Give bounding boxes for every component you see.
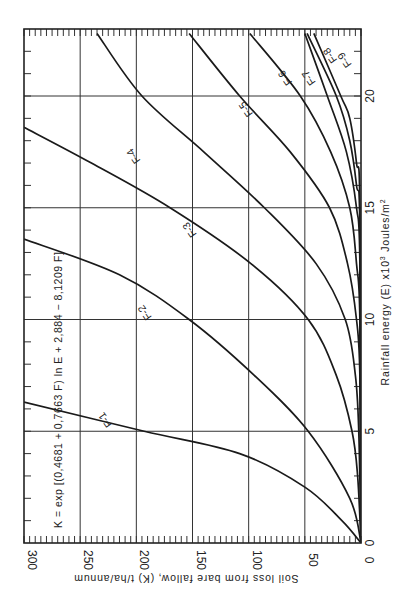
curve-f-5 [189, 33, 361, 543]
x-tick-label: 20 [363, 89, 377, 103]
y-axis-tick-labels: 050100150200250300 [25, 550, 376, 570]
x-axis-label-units-sup: 2 [379, 199, 386, 204]
curve-label-f-5: F-5 [236, 99, 255, 119]
y-tick-label: 100 [250, 550, 264, 570]
curve-label-f-9: F-9 [335, 50, 354, 70]
x-tick-label: 0 [363, 539, 377, 546]
x-axis-label-units: Joules/m [379, 203, 391, 255]
x-tick-label: 5 [363, 428, 377, 435]
y-tick-label: 150 [194, 550, 208, 570]
x-axis-label: Rainfall energy (E) x103 Joules/m2 [379, 199, 391, 386]
curve-label-f-4: F-4 [124, 146, 143, 166]
x-axis-tick-labels: 05101520 [363, 89, 377, 546]
y-tick-label: 250 [81, 550, 95, 570]
curve-label-f-8: F-8 [320, 46, 339, 66]
y-axis-label: Soil loss from bare fallow, (K) t/ha/ann… [73, 573, 298, 585]
y-tick-label: 0 [362, 557, 376, 564]
y-tick-label: 50 [306, 553, 320, 567]
x-axis-label-main: Rainfall energy (E) x10 [379, 260, 391, 385]
y-tick-label: 300 [25, 550, 39, 570]
curve-label-f-7: F-7 [299, 68, 318, 88]
soil-loss-chart: F-1F-2F-3F-4F-5F-6F-7F-8F-9 050100150200… [0, 0, 416, 613]
y-tick-label: 200 [137, 550, 151, 570]
equation-label: K = exp [(0,4681 + 0,7663 F) ln E + 2,88… [52, 252, 64, 528]
curve-label-f-1: F-1 [95, 410, 114, 430]
curve-labels: F-1F-2F-3F-4F-5F-6F-7F-8F-9 [95, 46, 353, 430]
grid-lines [24, 29, 361, 543]
curve-f-9 [314, 33, 361, 543]
curve-f-6 [250, 33, 361, 543]
curve-label-f-3: F-3 [180, 220, 199, 240]
x-tick-label: 10 [363, 313, 377, 327]
x-tick-label: 15 [363, 201, 377, 215]
